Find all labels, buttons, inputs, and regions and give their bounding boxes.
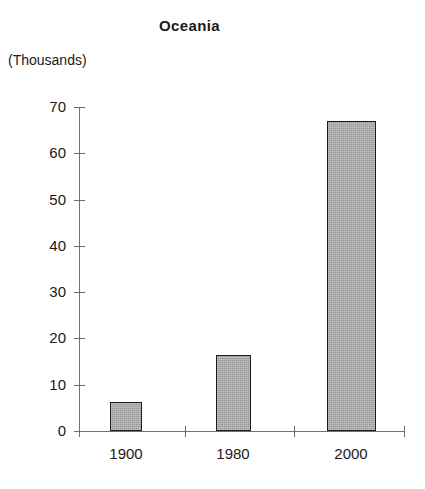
x-axis-tick-label: 1980 xyxy=(216,445,249,462)
y-axis-tick-label: 20 xyxy=(0,330,66,345)
x-axis-tick-label: 2000 xyxy=(334,445,367,462)
y-axis-tick-label: 40 xyxy=(0,238,66,253)
y-tick-mark xyxy=(74,200,85,201)
y-axis-tick-label: 10 xyxy=(0,377,66,392)
y-axis-tick-label: 60 xyxy=(0,145,66,160)
chart-title: Oceania xyxy=(0,17,425,35)
bar-2000 xyxy=(327,121,376,431)
y-axis-tick-label: 0 xyxy=(0,423,66,438)
bar-1900 xyxy=(110,402,142,431)
x-tick-mark xyxy=(185,426,186,437)
y-tick-mark xyxy=(74,246,85,247)
y-axis-tick-label: 30 xyxy=(0,284,66,299)
x-tick-mark xyxy=(294,426,295,437)
y-axis-tick-label: 50 xyxy=(0,192,66,207)
bar-1980 xyxy=(216,355,251,431)
y-tick-mark xyxy=(74,153,85,154)
y-tick-mark xyxy=(74,292,85,293)
y-axis-line xyxy=(79,107,80,432)
x-axis-tick-label: 1900 xyxy=(109,445,142,462)
y-tick-mark xyxy=(74,107,85,108)
x-tick-mark xyxy=(79,426,80,437)
x-tick-mark xyxy=(404,426,405,437)
x-axis-line xyxy=(79,431,405,432)
y-tick-mark xyxy=(74,338,85,339)
chart-subtitle-units: (Thousands) xyxy=(8,52,87,69)
y-tick-mark xyxy=(74,385,85,386)
bar-chart: Oceania (Thousands) 010203040506070 1900… xyxy=(0,0,425,489)
y-axis-tick-label: 70 xyxy=(0,99,66,114)
